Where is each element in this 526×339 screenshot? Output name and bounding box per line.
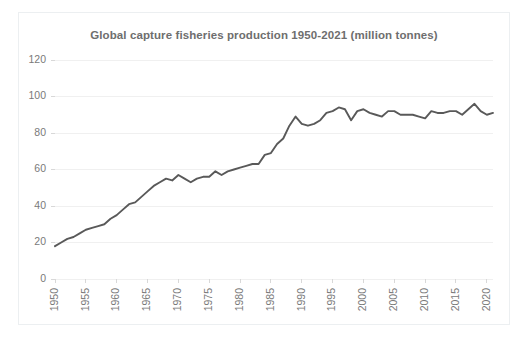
x-tick-label: 1990 [295, 288, 307, 312]
line-chart-plot: 020406080100120 195019551960196519701975… [19, 13, 511, 326]
x-tick-label: 2015 [449, 288, 461, 312]
y-tick-label: 80 [34, 126, 46, 138]
y-tick-label: 0 [40, 272, 46, 284]
y-axis-tick-labels: 020406080100120 [28, 53, 46, 284]
y-tick-label: 60 [34, 162, 46, 174]
x-axis-tick-labels: 1950195519601965197019751980198519901995… [48, 279, 492, 311]
x-tick-label: 1975 [202, 288, 214, 312]
x-tick-label: 1965 [140, 288, 152, 312]
gridlines-group [51, 60, 493, 279]
series-line-global-capture-fisheries [55, 104, 493, 246]
x-tick-label: 2005 [387, 288, 399, 312]
x-tick-label: 1980 [233, 288, 245, 312]
y-tick-label: 100 [28, 89, 46, 101]
x-tick-label: 1950 [48, 288, 60, 312]
x-tick-label: 1955 [79, 288, 91, 312]
data-series-group [55, 104, 493, 246]
x-tick-label: 1995 [325, 288, 337, 312]
y-tick-label: 40 [34, 199, 46, 211]
y-tick-label: 20 [34, 235, 46, 247]
y-tick-label: 120 [28, 53, 46, 65]
x-tick-label: 2020 [480, 288, 492, 312]
x-tick-label: 1985 [264, 288, 276, 312]
x-tick-label: 1960 [109, 288, 121, 312]
x-tick-label: 2000 [356, 288, 368, 312]
chart-card: Global capture fisheries production 1950… [18, 12, 510, 325]
x-tick-label: 1970 [171, 288, 183, 312]
x-tick-label: 2010 [418, 288, 430, 312]
